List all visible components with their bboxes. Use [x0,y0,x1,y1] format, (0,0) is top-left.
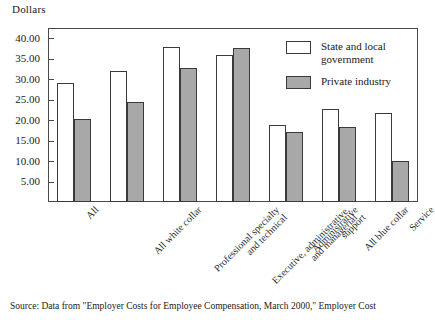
bar-state-local [375,113,392,202]
y-tick-label: 30.00 [15,74,44,85]
y-tick-label: 5.00 [21,176,44,187]
bar-state-local [163,47,180,202]
y-tick-label: 25.00 [15,94,44,105]
legend-item: State and local government [286,40,416,66]
y-tick-label: 20.00 [15,115,44,126]
x-tick-label: All white collar [152,204,204,256]
y-tick-label: 15.00 [15,135,44,146]
bar-state-local [322,109,339,202]
bar-state-local [269,125,286,202]
x-tick-label: Service [406,204,435,233]
y-tick-label: 35.00 [15,53,44,64]
y-tick-mark [48,79,54,80]
legend-swatch [286,41,311,54]
y-tick-label: 10.00 [15,156,44,167]
y-axis-title: Dollars [12,3,46,15]
bar-group [57,28,91,202]
y-axis: 5.0010.0015.0020.0025.0030.0035.0040.00 [0,28,44,202]
legend-swatch [286,76,311,89]
legend-item: Private industry [286,75,416,89]
x-tick-label: All blue collar [362,204,411,253]
y-tick-mark [48,38,54,39]
chart-legend: State and local governmentPrivate indust… [286,40,416,98]
y-tick-label: 40.00 [15,33,44,44]
bar-private [180,68,197,202]
bar-state-local [110,71,127,202]
source-note: Source: Data from "Employer Costs for Em… [10,300,430,312]
y-tick-mark [48,182,54,183]
x-axis: AllAll white collarProfessional specialt… [48,204,418,292]
bar-private [233,48,250,202]
bar-group [216,28,250,202]
bar-private [74,119,91,202]
bar-state-local [57,83,74,202]
y-tick-mark [48,59,54,60]
y-tick-mark [48,100,54,101]
legend-label: State and local government [321,40,416,66]
y-tick-mark [48,120,54,121]
legend-label: Private industry [321,75,391,88]
bar-group [163,28,197,202]
bar-private [127,102,144,202]
bar-group [110,28,144,202]
y-tick-mark [48,161,54,162]
y-tick-mark [48,141,54,142]
bar-private [392,161,409,202]
bar-private [286,132,303,202]
x-tick-label: All [84,204,101,221]
bar-state-local [216,55,233,202]
bar-private [339,127,356,202]
